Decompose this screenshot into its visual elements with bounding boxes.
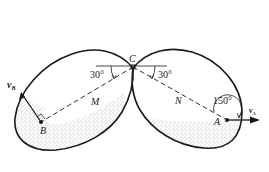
- label-point-A: A: [213, 116, 221, 127]
- label-region-N: N: [174, 95, 183, 106]
- label-region-M: M: [90, 96, 100, 107]
- label-point-B: B: [40, 125, 46, 136]
- point-B-marker: [39, 120, 43, 124]
- dashed-line-CA: [133, 67, 227, 120]
- label-point-C: C: [129, 53, 136, 64]
- label-angle-A: 150°: [213, 95, 232, 106]
- label-angle-right: 30°: [158, 69, 172, 80]
- velocity-vA-arrowhead: [250, 117, 260, 124]
- label-velocity-vA: vA: [249, 106, 257, 116]
- right-lobe-stipple: [140, 108, 250, 160]
- label-angle-left: 30°: [90, 69, 104, 80]
- orbit-diagram: C B A M N 30° 30° 150° vB vA: [0, 0, 269, 172]
- label-velocity-vB: vB: [7, 79, 15, 91]
- point-A-marker: [225, 118, 229, 122]
